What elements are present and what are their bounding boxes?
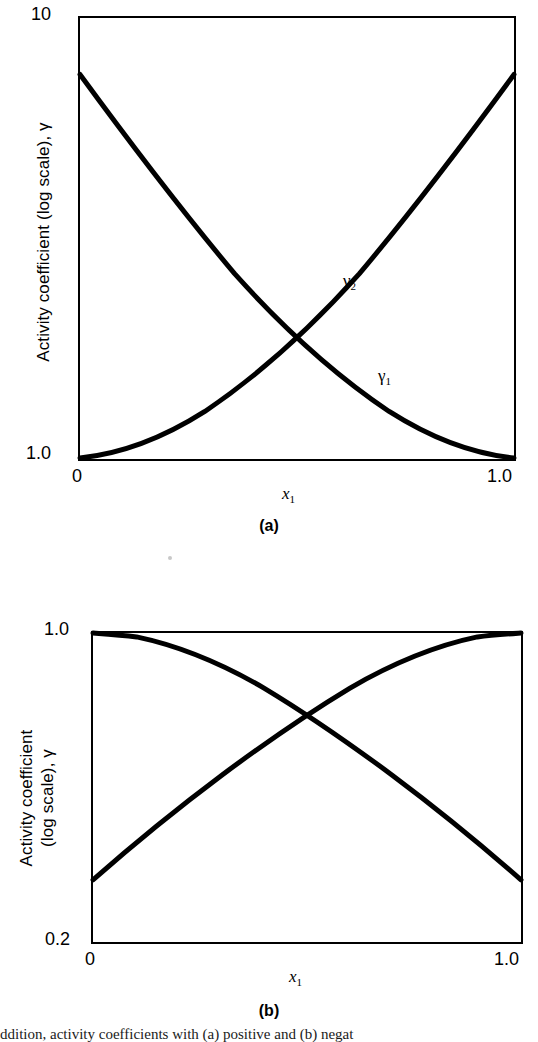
- panel-a-y-axis-label: Activity coefficient (log scale), γ: [33, 97, 55, 387]
- figure-bottom-caption-clipped: ddition, activity coefficients with (a) …: [0, 1027, 538, 1042]
- panel-a-gamma1-glyph: γ: [378, 366, 386, 385]
- panel-a-curves: [80, 18, 514, 459]
- panel-b-caption: (b): [0, 1002, 538, 1020]
- figure-activity-coefficients: Activity coefficient (log scale), γ 10 1…: [0, 0, 538, 1042]
- panel-b-x-tick-right: 1.0: [494, 949, 519, 970]
- panel-b-y-axis-label: Activity coefficient (log scale), γ: [16, 703, 60, 893]
- panel-a-y-tick-bottom: 1.0: [26, 443, 51, 464]
- panel-a-gamma2-glyph: γ: [343, 271, 351, 290]
- panel-a-y-axis-label-text: Activity coefficient (log scale), γ: [34, 122, 53, 361]
- panel-a-gamma1-subscript: 1: [386, 375, 392, 387]
- panel-b-curve-gamma1: [93, 633, 521, 880]
- panel-a-caption: (a): [0, 517, 538, 535]
- panel-a-x-axis-label-text: x: [282, 484, 290, 503]
- panel-b-x-tick-left: 0: [85, 949, 95, 970]
- panel-a-gamma2-subscript: 2: [351, 280, 357, 292]
- panel-b-y-tick-top: 1.0: [44, 619, 69, 640]
- panel-b-y-axis-label-line1: Activity coefficient: [17, 730, 36, 867]
- panel-b-x-axis-label-subscript: 1: [297, 976, 303, 988]
- panel-b-curves: [93, 633, 521, 942]
- panel-a-y-tick-top: 10: [31, 4, 51, 25]
- panel-b: Activity coefficient (log scale), γ 1.0 …: [0, 560, 538, 1042]
- panel-a-x-tick-right: 1.0: [487, 466, 512, 487]
- panel-b-curve-gamma2: [93, 633, 521, 880]
- panel-b-x-axis-label-text: x: [289, 967, 297, 986]
- panel-b-y-axis-label-line2: (log scale), γ: [37, 703, 58, 893]
- panel-a-x-axis-label: x1: [282, 484, 295, 505]
- panel-a-curve-label-gamma1: γ1: [378, 366, 391, 387]
- panel-a-x-tick-left: 0: [72, 466, 82, 487]
- panel-b-plot-frame: [91, 631, 523, 944]
- panel-b-y-tick-bottom: 0.2: [45, 929, 70, 950]
- panel-a-plot-frame: [78, 16, 516, 461]
- panel-b-x-axis-label: x1: [289, 967, 302, 988]
- panel-a-x-axis-label-subscript: 1: [290, 493, 296, 505]
- panel-a-curve-label-gamma2: γ2: [343, 271, 356, 292]
- panel-a-curve-gamma2: [80, 74, 514, 458]
- panel-a-curve-gamma1: [80, 74, 514, 458]
- panel-a: Activity coefficient (log scale), γ 10 1…: [0, 0, 538, 560]
